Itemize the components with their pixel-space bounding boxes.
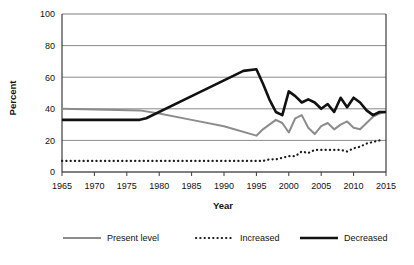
line-chart: Percent 020406080100 1965197019751980198…: [0, 0, 414, 265]
x-tick-label: 2000: [279, 181, 299, 191]
y-tick-label: 40: [45, 104, 55, 114]
legend-label-increased: Increased: [240, 233, 280, 243]
x-tick-label: 2005: [311, 181, 331, 191]
y-tick-labels: 020406080100: [40, 9, 55, 177]
x-tick-label: 2010: [344, 181, 364, 191]
x-tick-marks: [62, 172, 386, 176]
y-tick-label: 100: [40, 9, 55, 19]
y-tick-label: 0: [50, 167, 55, 177]
series-line-present-level: [62, 109, 386, 136]
x-tick-labels: 1965197019751980198519901995200020052010…: [52, 181, 396, 191]
figure-container: Percent 020406080100 1965197019751980198…: [0, 0, 414, 265]
x-tick-label: 1980: [149, 181, 169, 191]
y-tick-label: 20: [45, 136, 55, 146]
x-tick-label: 1970: [84, 181, 104, 191]
x-tick-label: 1965: [52, 181, 72, 191]
x-tick-label: 1995: [246, 181, 266, 191]
y-tick-label: 60: [45, 73, 55, 83]
x-tick-label: 1990: [214, 181, 234, 191]
x-axis-title: Year: [213, 200, 233, 211]
y-tick-label: 80: [45, 41, 55, 51]
x-tick-label: 1975: [117, 181, 137, 191]
series-layer: [62, 69, 386, 161]
x-tick-label: 1985: [182, 181, 202, 191]
gridlines: [62, 14, 386, 172]
y-axis-title: Percent: [7, 80, 18, 116]
legend-label-decreased: Decreased: [344, 233, 388, 243]
x-tick-label: 2015: [376, 181, 396, 191]
plot-frame: [62, 14, 386, 172]
series-line-increased: [62, 140, 380, 161]
legend-label-present-level: Present level: [107, 233, 159, 243]
chart-legend: Present levelIncreasedDecreased: [63, 233, 388, 243]
